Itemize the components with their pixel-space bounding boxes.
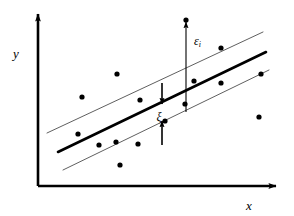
regression-epsilon-tube-figure: y x εi ξ xyxy=(0,0,294,216)
data-point xyxy=(114,71,119,76)
data-point xyxy=(256,114,261,119)
upper-margin-line xyxy=(47,32,263,133)
data-point xyxy=(218,45,223,50)
figure-canvas: y x εi ξ xyxy=(0,0,294,216)
annotation-arrows-group xyxy=(162,22,186,145)
data-point xyxy=(79,94,84,99)
data-point xyxy=(135,141,140,146)
data-point xyxy=(117,162,122,167)
data-point xyxy=(162,118,167,123)
xi-label: ξ xyxy=(156,110,162,124)
epsilon-i-label: εi xyxy=(194,34,201,49)
data-point xyxy=(137,97,142,102)
y-axis-label: y xyxy=(11,46,19,61)
x-axis-label: x xyxy=(245,198,252,213)
data-point xyxy=(182,101,187,106)
axes-group: y x xyxy=(11,14,276,213)
scatter-points-group xyxy=(75,17,263,167)
data-point xyxy=(258,71,263,76)
data-point xyxy=(191,78,196,83)
band-lines-group xyxy=(47,32,269,170)
epsilon-subscript: i xyxy=(199,40,201,49)
data-point xyxy=(96,142,101,147)
data-point xyxy=(218,80,223,85)
data-point xyxy=(183,17,188,22)
data-point xyxy=(113,139,118,144)
data-point xyxy=(75,131,80,136)
